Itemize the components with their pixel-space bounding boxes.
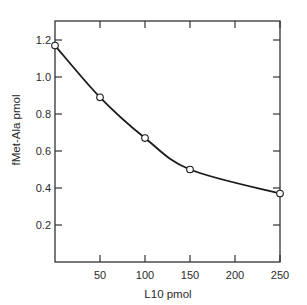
x-tick-label: 200	[226, 269, 244, 281]
data-curve	[55, 46, 280, 194]
data-markers	[52, 42, 284, 197]
y-tick-label: 0.8	[36, 108, 51, 120]
x-tick-label: 50	[94, 269, 106, 281]
data-point-marker	[142, 135, 149, 142]
data-point-marker	[187, 166, 194, 173]
y-tick-label: 0.6	[36, 145, 51, 157]
data-point-marker	[97, 94, 104, 101]
x-tick-label: 100	[136, 269, 154, 281]
x-tick-labels: 50100150200250	[94, 269, 289, 281]
x-tick-label: 250	[271, 269, 289, 281]
axis-ticks	[55, 21, 280, 262]
y-tick-label: 1.2	[36, 34, 51, 46]
y-tick-labels: 0.20.40.60.81.01.2	[36, 34, 51, 231]
y-axis-label: fMet-Ala pmol	[10, 95, 22, 166]
data-point-marker	[52, 42, 59, 49]
y-tick-label: 0.4	[36, 182, 51, 194]
x-axis-label: L10 pmol	[144, 288, 191, 300]
line-chart: 50100150200250 0.20.40.60.81.01.2 L10 pm…	[0, 0, 307, 305]
y-tick-label: 1.0	[36, 71, 51, 83]
x-tick-label: 150	[181, 269, 199, 281]
y-tick-label: 0.2	[36, 219, 51, 231]
plot-frame	[55, 21, 280, 262]
data-point-marker	[277, 190, 284, 197]
